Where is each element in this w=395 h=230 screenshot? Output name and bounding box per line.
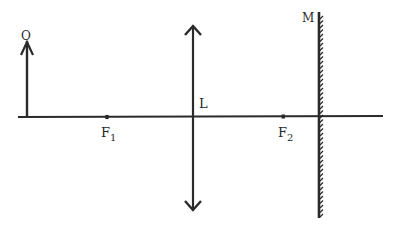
lens-label: L: [199, 96, 208, 111]
object-arrow: [21, 41, 33, 117]
mirror-label: M: [302, 11, 314, 25]
focus-1-point: [105, 115, 109, 119]
focus-1-subscript: 1: [110, 132, 116, 143]
focus-2-point: [282, 115, 286, 119]
focus-2-main: F: [278, 125, 287, 140]
plane-mirror: [319, 12, 323, 218]
optical-axis: [18, 116, 383, 117]
focus-2-subscript: 2: [287, 132, 293, 143]
converging-lens: [185, 26, 201, 210]
focus-1-main: F: [101, 125, 110, 140]
optics-diagram: O L F1 F2 M: [0, 0, 395, 230]
focus-1-label: F1: [101, 125, 116, 143]
object-label: O: [21, 29, 31, 43]
focus-2-label: F2: [278, 125, 293, 143]
